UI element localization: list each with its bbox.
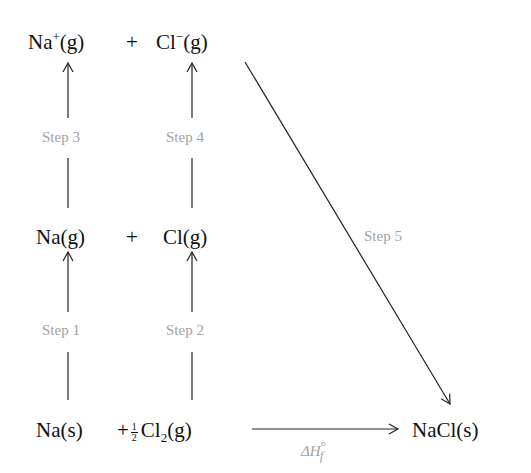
step4-label: Step 4 — [166, 130, 204, 145]
step2-label: Step 2 — [166, 323, 204, 338]
na-solid: Na(s) — [36, 420, 83, 441]
step5-label: Step 5 — [364, 229, 402, 244]
middle-plus: + — [126, 227, 138, 248]
na-ion-state: (g) — [60, 30, 85, 54]
na-ion-base: Na — [28, 30, 53, 54]
na-ion-charge: + — [53, 29, 60, 44]
one-half-fraction: 12 — [131, 422, 138, 443]
cl-gas: Cl(g) — [163, 227, 207, 248]
fraction-denominator: 2 — [131, 433, 138, 443]
nacl-solid: NaCl(s) — [412, 420, 479, 441]
cl-ion-base: Cl — [156, 30, 176, 54]
step5-arrow — [245, 62, 450, 404]
half-cl2-gas: +12Cl2(g) — [117, 420, 192, 443]
step1-label: Step 1 — [42, 323, 80, 338]
cl-ion-gas: Cl−(g) — [156, 32, 208, 53]
formation-subscript: f — [320, 448, 324, 463]
top-plus: + — [126, 32, 138, 53]
cl2-base: Cl — [141, 418, 161, 442]
step3-label: Step 3 — [42, 130, 80, 145]
formation-enthalpy-label: ΔH°f — [301, 444, 323, 459]
na-gas: Na(g) — [36, 227, 85, 248]
cl2-state: (g) — [167, 418, 192, 442]
bottom-plus: + — [117, 418, 129, 442]
na-ion-gas: Na+(g) — [28, 32, 84, 53]
delta-h: ΔH — [301, 443, 321, 459]
cl-ion-state: (g) — [183, 30, 208, 54]
